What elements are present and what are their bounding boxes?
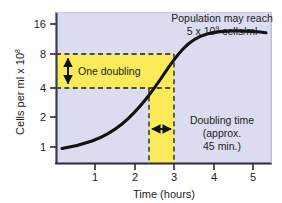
x-tick-label-2: 2 [132,171,138,183]
doubling-time-label-line3: 45 min.) [203,140,241,152]
population-annotation-units: cells/ml [219,25,257,37]
population-annotation-base: 5 x 10 [187,25,216,37]
y-axis-title: Cells per ml x 108 [14,49,26,135]
y-tick-label-16: 16 [34,18,46,30]
y-tick-label-1: 1 [40,141,46,153]
x-axis-title: Time (hours) [133,188,195,200]
one-doubling-label: One doubling [78,65,141,77]
doubling-time-band [149,54,174,163]
growth-curve-figure: 16 8 4 2 1 1 2 3 4 5 Cells per ml x 108 … [0,0,282,203]
population-annotation-line2: 5 x 109 cells/ml [187,25,257,37]
doubling-time-label-line1: Doubling time [190,114,254,126]
y-tick-label-4: 4 [40,82,46,94]
x-tick-label-4: 4 [211,171,217,183]
y-tick-label-2: 2 [40,111,46,123]
y-axis-title-main: Cells per ml x 10 [14,53,26,135]
y-tick-label-8: 8 [40,48,46,60]
chart-canvas: 16 8 4 2 1 1 2 3 4 5 Cells per ml x 108 … [0,0,282,203]
y-axis-title-group: Cells per ml x 108 [14,49,26,135]
y-axis-title-exponent: 8 [14,49,21,53]
population-annotation-line1: Population may reach [171,12,273,24]
x-tick-label-3: 3 [171,171,177,183]
x-tick-label-1: 1 [92,171,98,183]
x-tick-label-5: 5 [250,171,256,183]
doubling-time-label-line2: (approx. [203,127,242,139]
